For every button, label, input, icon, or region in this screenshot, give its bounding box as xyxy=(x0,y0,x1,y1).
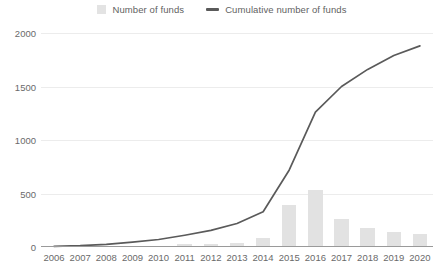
plot-area xyxy=(41,33,433,247)
chart-legend: Number of funds Cumulative number of fun… xyxy=(0,4,444,15)
legend-label: Cumulative number of funds xyxy=(225,4,346,15)
x-axis-labels: 2006200720082009201020112012201320142015… xyxy=(41,252,433,268)
x-axis-tick-label: 2014 xyxy=(253,252,274,263)
x-axis-tick-label: 2013 xyxy=(226,252,247,263)
chart-container: Number of funds Cumulative number of fun… xyxy=(0,0,444,277)
x-axis-tick-label: 2019 xyxy=(383,252,404,263)
x-axis-tick-label: 2007 xyxy=(70,252,91,263)
legend-item-cumulative-number-of-funds[interactable]: Cumulative number of funds xyxy=(206,4,346,15)
x-axis-tick-label: 2020 xyxy=(409,252,430,263)
legend-item-number-of-funds[interactable]: Number of funds xyxy=(97,4,184,15)
y-axis-tick-label: 1000 xyxy=(15,135,36,146)
y-axis-labels: 0500100015002000 xyxy=(0,33,36,247)
x-axis-tick-label: 2012 xyxy=(200,252,221,263)
x-axis-tick-label: 2010 xyxy=(148,252,169,263)
x-axis-tick-label: 2018 xyxy=(357,252,378,263)
x-axis-tick-label: 2017 xyxy=(331,252,352,263)
y-axis-tick-label: 0 xyxy=(31,242,36,253)
x-axis-tick-label: 2009 xyxy=(122,252,143,263)
x-axis-tick-label: 2011 xyxy=(174,252,194,263)
x-axis-tick-label: 2015 xyxy=(279,252,300,263)
y-axis-tick-label: 500 xyxy=(20,188,36,199)
x-axis-tick-label: 2006 xyxy=(44,252,65,263)
x-axis-tick-label: 2008 xyxy=(96,252,117,263)
line-swatch-icon xyxy=(206,8,219,11)
x-axis-tick-label: 2016 xyxy=(305,252,326,263)
line-series xyxy=(41,33,433,247)
bar-swatch-icon xyxy=(97,5,106,14)
legend-label: Number of funds xyxy=(112,4,184,15)
cumulative-line[interactable] xyxy=(54,46,420,247)
y-axis-tick-label: 1500 xyxy=(15,81,36,92)
x-axis-line xyxy=(41,246,433,247)
y-axis-tick-label: 2000 xyxy=(15,28,36,39)
